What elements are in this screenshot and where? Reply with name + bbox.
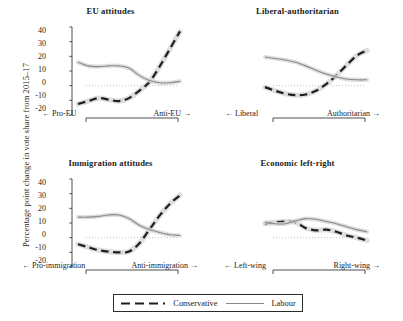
legend-label-labour: Labour [272, 299, 296, 308]
plot-area [28, 158, 193, 273]
panel-immigration-attitudes: Immigration attitudes 40 30 20 10 0 -10 … [28, 158, 193, 273]
x-axis-caption-right: Right-wing → [334, 261, 380, 270]
legend: Conservative Labour [113, 294, 303, 312]
panel-title: Immigration attitudes [28, 158, 193, 168]
legend-label-conservative: Conservative [173, 299, 217, 308]
plot-area [28, 6, 193, 121]
x-axis-caption-left: ← Pro-immigration [22, 261, 85, 270]
y-tick-label: -10 [28, 244, 46, 252]
x-axis-caption-left: ← Pro-EU [42, 109, 76, 118]
x-axis-caption-right: Anti-immigration → [132, 261, 198, 270]
y-tick-label: 40 [28, 27, 46, 35]
y-tick-label: 40 [28, 179, 46, 187]
figure-container: Percentage point change in vote share fr… [0, 0, 403, 321]
x-axis-caption-left: ← Left-wing [224, 261, 266, 270]
y-tick-label: 20 [28, 205, 46, 213]
panel-title: Economic left-right [215, 158, 380, 168]
y-tick-label: -10 [28, 92, 46, 100]
legend-swatch-conservative [120, 300, 166, 307]
plot-area [215, 158, 380, 273]
y-tick-label: 0 [28, 79, 46, 87]
y-tick-label: 10 [28, 66, 46, 74]
y-tick-label: 30 [28, 192, 46, 200]
panel-eu-attitudes: EU attitudes 40 30 20 10 0 -10 -20 ← Pro… [28, 6, 193, 121]
panel-liberal-authoritarian: Liberal-authoritarian ← Liberal Authorit… [215, 6, 380, 121]
plot-area [215, 6, 380, 121]
legend-swatch-labour [225, 300, 265, 307]
x-axis-caption-right: Authoritarian → [327, 109, 380, 118]
panel-economic-left-right: Economic left-right ← Left-wing Right-wi… [215, 158, 380, 273]
y-tick-label: 0 [28, 231, 46, 239]
y-tick-label: 30 [28, 40, 46, 48]
panel-title: Liberal-authoritarian [215, 6, 380, 16]
y-tick-label: 20 [28, 53, 46, 61]
panel-title: EU attitudes [28, 6, 193, 16]
x-axis-caption-left: ← Liberal [225, 109, 258, 118]
y-tick-label: 10 [28, 218, 46, 226]
x-axis-caption-right: Anti-EU → [153, 109, 191, 118]
